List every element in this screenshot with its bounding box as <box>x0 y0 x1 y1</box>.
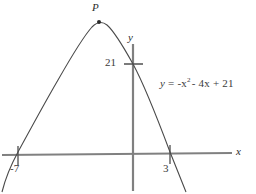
vertex-point-marker <box>97 20 101 24</box>
y-intercept-label: 21 <box>105 57 116 68</box>
x-axis-line <box>2 153 232 155</box>
x-intercept-right-label: 3 <box>163 163 169 174</box>
equation-lhs: y <box>160 77 165 89</box>
x-intercept-left-label: -7 <box>10 163 19 174</box>
math-graph-figure: P y x 21 -7 3 y=-x2- 4x+ 21 <box>0 0 256 194</box>
equation-term2: - 4x <box>192 77 210 89</box>
equation-term1: -x <box>178 77 188 89</box>
graph-canvas <box>0 0 256 194</box>
point-p-label: P <box>92 2 99 13</box>
equation-equals: = <box>168 77 174 89</box>
equation-label: y=-x2- 4x+ 21 <box>160 78 234 89</box>
equation-exponent: 2 <box>187 76 191 84</box>
parabola-curve <box>2 23 186 192</box>
y-axis-label: y <box>128 32 133 43</box>
x-axis-label: x <box>236 146 241 157</box>
equation-term3: + 21 <box>213 77 234 89</box>
